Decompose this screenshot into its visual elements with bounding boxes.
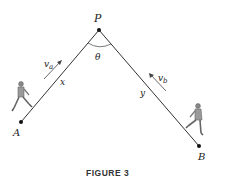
figure-caption: FIGURE 3 xyxy=(86,168,129,178)
walker-b-icon xyxy=(186,104,203,135)
point-B xyxy=(197,144,201,148)
label-vb: vb xyxy=(158,73,168,85)
label-P: P xyxy=(93,12,102,25)
vb-subscript: b xyxy=(163,77,168,85)
label-va: va xyxy=(44,59,53,71)
label-y: y xyxy=(139,88,146,98)
diagram-canvas: P A B θ x y va vb FIGURE 3 xyxy=(0,0,231,189)
point-A xyxy=(19,120,23,124)
label-x: x xyxy=(60,77,65,87)
walker-a-icon xyxy=(12,82,32,111)
point-P xyxy=(97,28,101,32)
label-B: B xyxy=(197,151,205,162)
segment-x xyxy=(21,30,99,122)
angle-arc xyxy=(88,43,111,47)
label-A: A xyxy=(12,127,20,138)
label-theta: θ xyxy=(95,52,101,62)
va-subscript: a xyxy=(49,63,53,71)
segment-y xyxy=(99,30,199,146)
